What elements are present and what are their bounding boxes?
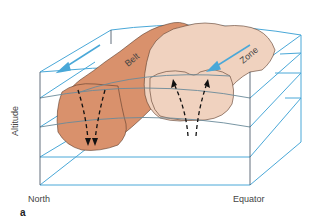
altitude-axis-label: Altitude: [10, 106, 20, 136]
equator-label: Equator: [233, 194, 265, 204]
panel-letter: a: [20, 207, 26, 218]
zone-front-face: [150, 70, 234, 121]
north-label: North: [28, 194, 50, 204]
diagram-canvas: Belt Zone: [0, 0, 315, 222]
belt-zone-diagram: Belt Zone Altitude North Equator a: [0, 0, 315, 222]
